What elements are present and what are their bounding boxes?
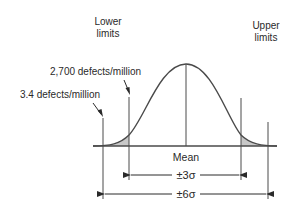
upper-limits-label-line1: Upper [252,20,280,31]
defects-6sigma-arrowhead [98,109,104,117]
six-sigma-label: ±6σ [177,188,196,200]
right-tail-shading [241,135,268,146]
defects-3sigma-label: 2,700 defects/million [50,66,141,77]
defects-6sigma-label: 3.4 defects/million [20,89,100,100]
lower-limits-label-line2: limits [97,28,120,39]
mean-label: Mean [173,151,199,163]
six-sigma-diagram: ±3σ ±6σ Mean Lower limits Upper limits 2… [0,0,289,210]
three-sigma-label: ±3σ [177,169,196,181]
upper-limits-label-line2: limits [255,32,278,43]
defects-3sigma-arrowhead [126,87,131,95]
lower-limits-label-line1: Lower [94,16,122,27]
left-tail-shading [103,135,129,146]
